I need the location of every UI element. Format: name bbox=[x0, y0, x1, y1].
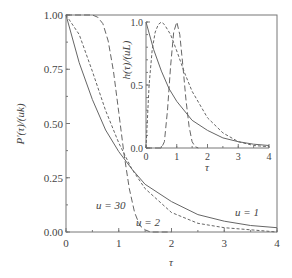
inset-x-axis-label: τ bbox=[205, 161, 210, 173]
x-tick-label: 1 bbox=[116, 237, 122, 249]
y-tick-label: 1.0 bbox=[131, 17, 144, 28]
y-tick-label: 0.50 bbox=[44, 118, 64, 130]
inset-plot-background bbox=[146, 22, 269, 148]
main-annotations: u = 30u = 2u = 1 bbox=[96, 199, 259, 228]
y-tick-label: 0.00 bbox=[44, 226, 64, 238]
x-tick-label: 2 bbox=[169, 237, 175, 249]
x-tick-label: 1 bbox=[174, 151, 179, 162]
y-tick-label: 1.00 bbox=[44, 9, 64, 21]
chart: 012340.000.250.500.751.00 P′(τ)/(uk) τ u… bbox=[0, 0, 292, 278]
curve-annotation: u = 2 bbox=[136, 216, 160, 228]
inset-plot: 012340.00.51.0 h(τ)/(uL) τ bbox=[120, 17, 272, 173]
main-x-axis-label: τ bbox=[169, 256, 174, 268]
y-tick-label: 0.25 bbox=[44, 172, 64, 184]
y-tick-label: 0.5 bbox=[131, 80, 144, 91]
curve-annotation: u = 1 bbox=[235, 206, 259, 218]
y-tick-label: 0.0 bbox=[131, 143, 144, 154]
curve-annotation: u = 30 bbox=[96, 199, 126, 211]
x-tick-label: 3 bbox=[236, 151, 241, 162]
x-tick-label: 4 bbox=[267, 151, 272, 162]
x-tick-label: 0 bbox=[63, 237, 69, 249]
inset-y-axis-label: h(τ)/(uL) bbox=[120, 40, 133, 79]
x-tick-label: 4 bbox=[274, 237, 280, 249]
x-tick-label: 0 bbox=[144, 151, 149, 162]
x-tick-label: 3 bbox=[222, 237, 228, 249]
main-y-axis-label: P′(τ)/(uk) bbox=[14, 103, 27, 145]
y-tick-label: 0.75 bbox=[44, 63, 64, 75]
